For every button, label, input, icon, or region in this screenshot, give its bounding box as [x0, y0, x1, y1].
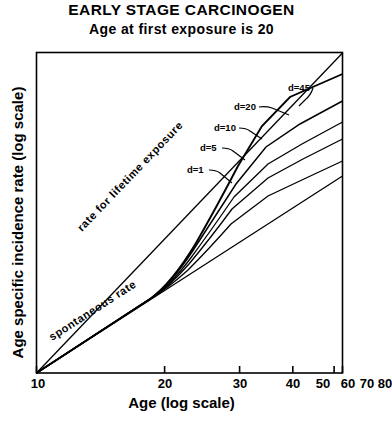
x-tick-label-80: 80 [378, 376, 392, 391]
x-tick-label-30: 30 [233, 376, 247, 391]
y-axis-title: Age specific incidence rate (log scale) [9, 58, 26, 388]
x-tick-label-10: 10 [31, 376, 45, 391]
x-tick-label-60: 60 [341, 376, 355, 391]
x-tick-label-40: 40 [286, 376, 300, 391]
series-curve-d1 [37, 161, 343, 373]
curve-label-d20: d=20 [234, 101, 256, 112]
x-tick-label-70: 70 [360, 376, 374, 391]
series-curve-d10 [37, 122, 343, 373]
curve-label-d5: d=5 [200, 142, 217, 153]
curve-label-d10: d=10 [214, 122, 236, 133]
curve-label-d45: d=45 [288, 82, 311, 93]
x-tick-label-50: 50 [316, 376, 330, 391]
x-axis-ticks [37, 366, 343, 373]
annotation-spontaneous-rate: spontaneous rate [47, 278, 139, 343]
x-axis-title: Age (log scale) [0, 394, 363, 411]
curve-label-leaders [209, 88, 313, 183]
x-tick-label-20: 20 [158, 376, 172, 391]
series-line-lifetime-exposure [37, 53, 343, 373]
series-curve-d20 [37, 101, 343, 373]
annotation-lifetime-exposure: rate for lifetime exposure [75, 119, 185, 234]
curve-label-d1: d=1 [187, 164, 204, 175]
